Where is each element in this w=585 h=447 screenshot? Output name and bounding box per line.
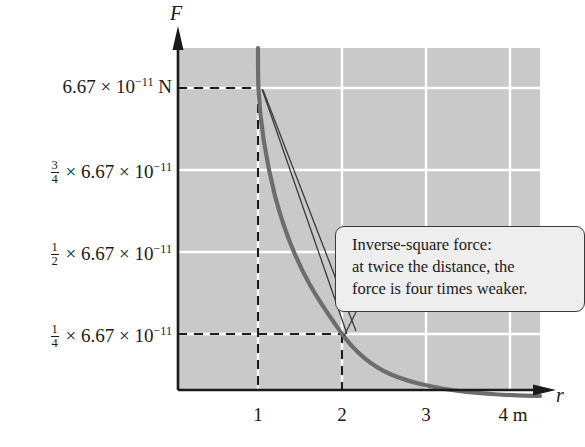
y-tick-times-a: × xyxy=(66,243,77,264)
y-tick-base: 10 xyxy=(116,76,135,97)
x-tick-label-4m: 4 m xyxy=(498,404,527,426)
fraction-three-quarters: 3 4 xyxy=(51,159,59,186)
fraction-numerator: 1 xyxy=(51,241,59,254)
y-tick-base: 10 xyxy=(134,161,153,182)
y-tick-mantissa: 6.67 xyxy=(81,325,114,346)
x-tick-label-1: 1 xyxy=(253,404,263,426)
y-tick-times-a: × xyxy=(66,325,77,346)
fraction-numerator: 3 xyxy=(51,159,59,172)
fraction-one-half: 1 2 xyxy=(51,241,59,268)
plot-background xyxy=(178,48,540,390)
callout-line-2: at twice the distance, the xyxy=(352,256,584,278)
x-tick-label-2: 2 xyxy=(337,404,347,426)
fraction-denominator: 4 xyxy=(51,336,59,350)
y-tick-exponent: −11 xyxy=(153,242,172,256)
x-axis-title: r xyxy=(556,384,564,407)
callout-line-1: Inverse-square force: xyxy=(352,234,584,256)
y-tick-unit: N xyxy=(158,76,172,97)
y-tick-exponent: −11 xyxy=(135,75,154,89)
y-tick-exponent: −11 xyxy=(153,324,172,338)
x-axis-arrowhead xyxy=(533,385,556,396)
y-tick-base: 10 xyxy=(134,325,153,346)
fraction-denominator: 2 xyxy=(51,254,59,268)
y-tick-times-b: × xyxy=(119,161,130,182)
x-tick-label-3: 3 xyxy=(421,404,431,426)
y-axis-arrowhead xyxy=(173,26,184,50)
y-tick-mantissa: 6.67 xyxy=(62,76,95,97)
callout-line-3: force is four times weaker. xyxy=(352,278,584,300)
y-tick-times-a: × xyxy=(66,161,77,182)
fraction-one-quarter: 1 4 xyxy=(51,323,59,350)
fraction-numerator: 1 xyxy=(51,323,59,336)
y-tick-times: × xyxy=(100,76,111,97)
callout-box: Inverse-square force: at twice the dista… xyxy=(335,226,585,312)
fraction-denominator: 4 xyxy=(51,172,59,186)
y-tick-mantissa: 6.67 xyxy=(81,243,114,264)
y-tick-exponent: −11 xyxy=(153,160,172,174)
y-tick-mantissa: 6.67 xyxy=(81,161,114,182)
y-tick-base: 10 xyxy=(134,243,153,264)
y-tick-times-b: × xyxy=(119,325,130,346)
y-tick-times-b: × xyxy=(119,243,130,264)
y-axis-title: F xyxy=(170,2,182,25)
